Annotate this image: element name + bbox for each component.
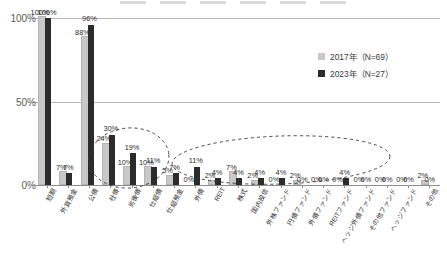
- bar: [66, 173, 72, 185]
- strip-mark: [160, 1, 186, 4]
- x-axis-labels: 短期外貨預金公債社債劣後債仕組債仕組預金外債REIT株式国内投信外株ファンド円債…: [36, 186, 440, 266]
- plot-area: 100%100%7%7%88%96%24%30%10%19%10%11%5%7%…: [36, 18, 440, 185]
- y-axis-tick-label: 0%: [2, 180, 36, 191]
- bar-group: 0%11%: [185, 18, 206, 185]
- bar-group: 5%7%: [164, 18, 185, 185]
- bar-group: 2%4%: [249, 18, 270, 185]
- y-axis: 0%50%100%: [0, 18, 36, 185]
- strip-mark: [120, 1, 146, 4]
- bar: [215, 178, 221, 185]
- legend-item: 2017年（N=69）: [318, 50, 393, 62]
- x-axis-tick-mark: [47, 185, 48, 188]
- bar: [236, 178, 242, 185]
- bar-value-label: 19%: [122, 144, 142, 152]
- bar-value-label: 7%: [58, 164, 78, 172]
- bar-value-label: 11%: [143, 157, 163, 165]
- x-axis-category-label: 仕組預金: [163, 186, 185, 215]
- chart-legend: 2017年（N=69）2023年（N=27）: [318, 50, 393, 84]
- bar: [343, 178, 349, 185]
- legend-item: 2023年（N=27）: [318, 67, 393, 79]
- bar-group: 0%0%: [312, 18, 333, 185]
- bar-value-label: 100%: [37, 9, 57, 17]
- x-axis-category-label: 仕組債: [146, 186, 165, 209]
- bar-group: 2%0%: [419, 18, 440, 185]
- bar: [173, 173, 179, 185]
- bar-chart: 0%50%100% 100%100%7%7%88%96%24%30%10%19%…: [0, 0, 447, 266]
- bar-group: 0%0%: [376, 18, 397, 185]
- x-axis-category-label: 外債: [192, 186, 208, 203]
- bar-group: 100%100%: [36, 18, 57, 185]
- bar-group: 10%11%: [142, 18, 163, 185]
- x-axis-tick-mark: [281, 185, 282, 188]
- top-clipped-strip: [0, 0, 447, 6]
- x-axis-category-label: 国内投信: [248, 186, 270, 215]
- x-axis-category-label: 外貨預金: [57, 186, 79, 215]
- x-axis-category-label: 株式: [234, 186, 250, 203]
- legend-swatch: [318, 53, 325, 60]
- strip-mark: [200, 1, 226, 4]
- bar: [45, 18, 51, 185]
- bar-value-label: 7%: [165, 164, 185, 172]
- bar: [109, 135, 115, 185]
- x-axis-category-label: その他: [422, 186, 441, 209]
- bar-group: 88%96%: [79, 18, 100, 185]
- x-axis-tick-mark: [132, 185, 133, 188]
- legend-label: 2023年（N=27）: [330, 67, 393, 79]
- legend-label: 2017年（N=69）: [330, 50, 393, 62]
- bar-group: 2%4%: [206, 18, 227, 185]
- strip-mark: [320, 1, 346, 4]
- strip-mark: [240, 1, 266, 4]
- bar: [194, 167, 200, 185]
- bar-group: 2%0%: [291, 18, 312, 185]
- bar-group: 0%0%: [397, 18, 418, 185]
- legend-swatch: [318, 70, 325, 77]
- bar: [258, 178, 264, 185]
- strip-mark: [280, 1, 306, 4]
- x-axis-category-label: 劣後債: [124, 186, 143, 209]
- x-axis-category-label: 公債: [85, 186, 101, 203]
- x-axis-category-label: 短期: [43, 186, 59, 203]
- x-axis-category-label: REIT: [212, 186, 225, 202]
- bar-value-label: 0%: [420, 176, 440, 184]
- bar-value-label: 96%: [80, 15, 100, 23]
- bar-value-label: 11%: [186, 157, 206, 165]
- bar-group: 7%7%: [57, 18, 78, 185]
- bar-group: 0%4%: [334, 18, 355, 185]
- bar: [88, 25, 94, 185]
- bar-group: 0%4%: [270, 18, 291, 185]
- y-axis-tick-label: 50%: [2, 96, 36, 107]
- bar: [279, 178, 285, 185]
- bar: [151, 167, 157, 185]
- bar-group: 7%4%: [227, 18, 248, 185]
- bar-group: 0%0%: [355, 18, 376, 185]
- bar-value-label: 30%: [101, 125, 121, 133]
- bar: [130, 153, 136, 185]
- x-axis-category-label: 社債: [107, 186, 123, 203]
- x-axis-tick-mark: [366, 185, 367, 188]
